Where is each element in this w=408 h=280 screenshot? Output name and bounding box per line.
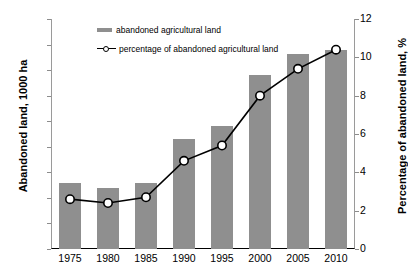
x-tick-label: 1975 — [50, 252, 90, 264]
x-tick-label: 2010 — [316, 252, 356, 264]
line-marker — [256, 91, 264, 99]
chart-legend: abandoned agricultural land percentage o… — [97, 22, 278, 60]
left-axis-title: Abandoned land, 1000 ha — [17, 51, 29, 201]
line-marker-icon — [97, 44, 116, 53]
right-tick-label: 4 — [360, 165, 384, 177]
x-tick-label: 2000 — [240, 252, 280, 264]
legend-item-line: percentage of abandoned agricultural lan… — [97, 41, 278, 56]
right-tick-mark — [355, 57, 359, 58]
right-tick-mark — [355, 211, 359, 212]
right-tick-label: 0 — [360, 242, 384, 254]
line-marker — [332, 45, 340, 53]
right-tick-mark — [355, 249, 359, 250]
right-tick-mark — [355, 19, 359, 20]
right-tick-mark — [355, 134, 359, 135]
right-tick-mark — [355, 96, 359, 97]
line-marker — [180, 157, 188, 165]
line-markers — [66, 45, 340, 207]
right-tick-label: 12 — [360, 12, 384, 24]
line-marker — [218, 141, 226, 149]
legend-item-bar: abandoned agricultural land — [97, 22, 278, 37]
bar-swatch-icon — [97, 28, 112, 32]
x-tick-label: 1980 — [88, 252, 128, 264]
x-tick-label: 1985 — [126, 252, 166, 264]
left-tick-mark — [47, 249, 51, 250]
right-tick-label: 2 — [360, 204, 384, 216]
line-marker — [142, 193, 150, 201]
x-tick-label: 1995 — [202, 252, 242, 264]
right-tick-mark — [355, 172, 359, 173]
x-tick-label: 2005 — [278, 252, 318, 264]
legend-label-bar: abandoned agricultural land — [116, 25, 221, 35]
line-marker — [294, 65, 302, 73]
line-marker — [66, 195, 74, 203]
right-tick-label: 6 — [360, 127, 384, 139]
right-tick-label: 8 — [360, 89, 384, 101]
right-tick-label: 10 — [360, 50, 384, 62]
line-marker — [104, 199, 112, 207]
legend-label-line: percentage of abandoned agricultural lan… — [119, 44, 278, 54]
right-axis-title: Percentage of abandoned land, % — [396, 31, 408, 221]
x-tick-label: 1990 — [164, 252, 204, 264]
